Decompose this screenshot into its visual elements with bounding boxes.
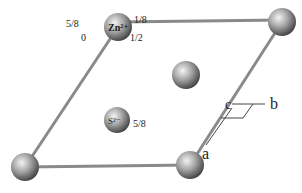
edge-right bbox=[190, 22, 282, 165]
axis-label-c: c bbox=[225, 97, 231, 112]
unit-cell-diagram: Zn²⁺ S²⁻ 5/8 1/8 0 1/2 5/8 a b c bbox=[0, 0, 302, 193]
cell-edges bbox=[25, 20, 282, 167]
label-zn-lower-left: 0 bbox=[81, 32, 86, 43]
label-zn-upper-right: 1/8 bbox=[134, 14, 147, 25]
axis-a-line bbox=[206, 108, 232, 145]
label-zn-upper-left: 5/8 bbox=[66, 18, 79, 29]
zn-label: Zn²⁺ bbox=[108, 22, 129, 33]
axis-label-a: a bbox=[202, 145, 209, 162]
atom-zn: Zn²⁺ bbox=[104, 13, 132, 41]
sphere-center bbox=[172, 61, 200, 89]
edge-left bbox=[25, 27, 118, 167]
sphere-corner-bottom-left bbox=[11, 153, 39, 181]
sphere-corner-bottom-right bbox=[176, 151, 204, 179]
axis-label-b: b bbox=[270, 95, 278, 112]
label-s-height: 5/8 bbox=[133, 118, 146, 129]
edge-bottom bbox=[25, 165, 190, 167]
sphere-corner-top-right bbox=[268, 8, 296, 36]
atom-s: S²⁻ bbox=[104, 107, 130, 133]
s-label: S²⁻ bbox=[108, 116, 121, 126]
label-zn-lower-right: 1/2 bbox=[130, 32, 143, 43]
